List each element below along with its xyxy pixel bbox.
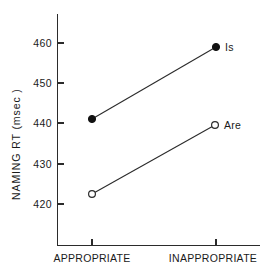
y-axis-title: NAMING RT (msec ) <box>10 88 22 200</box>
data-point-is-inappropriate <box>212 43 219 50</box>
line-chart-plot: 460 450 440 430 420 APPROPRIATE INAPPROP… <box>0 0 274 276</box>
series-line-are <box>92 125 215 194</box>
x-tick-label-inappropriate: INAPPROPRIATE <box>169 252 257 264</box>
data-point-is-appropriate <box>88 115 95 122</box>
y-tick-label-430: 430 <box>33 158 52 170</box>
x-tick-label-appropriate: APPROPRIATE <box>53 252 130 264</box>
series-label-are: Are <box>224 119 241 131</box>
y-tick-label-420: 420 <box>33 198 52 210</box>
y-tick-label-460: 460 <box>33 37 52 49</box>
y-tick-label-440: 440 <box>33 117 52 129</box>
series-line-is <box>92 47 216 119</box>
series-label-is: Is <box>225 41 234 53</box>
data-point-are-appropriate <box>89 191 96 198</box>
data-point-are-inappropriate <box>212 122 219 129</box>
y-tick-label-450: 450 <box>33 77 52 89</box>
chart-figure: 460 450 440 430 420 APPROPRIATE INAPPROP… <box>0 0 274 276</box>
